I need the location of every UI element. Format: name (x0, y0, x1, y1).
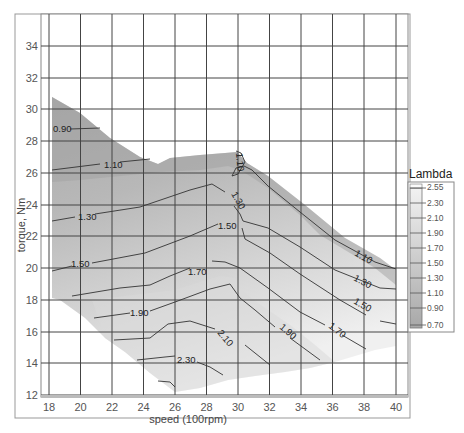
legend-title: Lambda (409, 167, 453, 181)
y-tick-22: 22 (26, 230, 38, 242)
legend-level-1.10: 1.10 (427, 288, 444, 298)
contour-label-0.90: 0.90 (53, 123, 72, 134)
x-tick-18: 18 (43, 401, 55, 413)
x-axis-baseline (41, 395, 408, 398)
contour-label-2.30: 2.30 (177, 354, 196, 365)
y-tick-30: 30 (26, 103, 38, 115)
x-tick-24: 24 (137, 401, 149, 413)
y-axis-label: torque, Nm (15, 198, 27, 252)
y-tick-20: 20 (26, 262, 38, 274)
colorbar-legend: Lambda 2.55 2.30 2.10 1.90 1.70 1.50 1.3… (408, 167, 454, 332)
legend-colorbar (410, 188, 422, 328)
legend-level-2.55: 2.55 (427, 182, 444, 192)
legend-level-2.10: 2.10 (427, 213, 444, 223)
legend-level-1.50: 1.50 (427, 258, 444, 268)
y-tick-14: 14 (26, 357, 38, 369)
legend-level-1.90: 1.90 (427, 228, 444, 238)
contour-label-1.70: 1.70 (188, 266, 207, 277)
x-tick-32: 32 (263, 401, 275, 413)
contour-label-1.30: 1.30 (78, 211, 97, 222)
x-tick-20: 20 (74, 401, 86, 413)
legend-level-1.30: 1.30 (427, 273, 444, 283)
contour-chart: 0.90 1.10 1.30 1.50 1.70 1.90 2.30 1.50 … (0, 0, 464, 433)
y-tick-34: 34 (26, 40, 38, 52)
y-tick-16: 16 (26, 326, 38, 338)
contour-label-1.90: 1.90 (130, 307, 149, 318)
legend-level-0.90: 0.90 (427, 303, 444, 313)
x-tick-38: 38 (358, 401, 370, 413)
x-tick-26: 26 (169, 401, 181, 413)
y-tick-24: 24 (26, 199, 38, 211)
contour-label-1.50-b: 1.50 (218, 220, 237, 231)
x-tick-22: 22 (106, 401, 118, 413)
y-tick-32: 32 (26, 72, 38, 84)
contour-label-1.10: 1.10 (104, 159, 123, 170)
legend-level-2.30: 2.30 (427, 198, 444, 208)
y-tick-28: 28 (26, 135, 38, 147)
x-tick-30: 30 (232, 401, 244, 413)
x-tick-34: 34 (295, 401, 307, 413)
legend-level-0.70: 0.70 (427, 320, 444, 330)
y-tick-18: 18 (26, 294, 38, 306)
y-tick-26: 26 (26, 167, 38, 179)
x-tick-28: 28 (200, 401, 212, 413)
x-tick-40: 40 (390, 401, 402, 413)
x-axis-label: speed (100rpm) (149, 413, 227, 425)
y-tick-12: 12 (26, 389, 38, 401)
contour-label-1.10-b: 1.10 (234, 152, 247, 171)
x-tick-36: 36 (326, 401, 338, 413)
contour-label-1.50: 1.50 (71, 258, 90, 269)
legend-level-1.70: 1.70 (427, 243, 444, 253)
